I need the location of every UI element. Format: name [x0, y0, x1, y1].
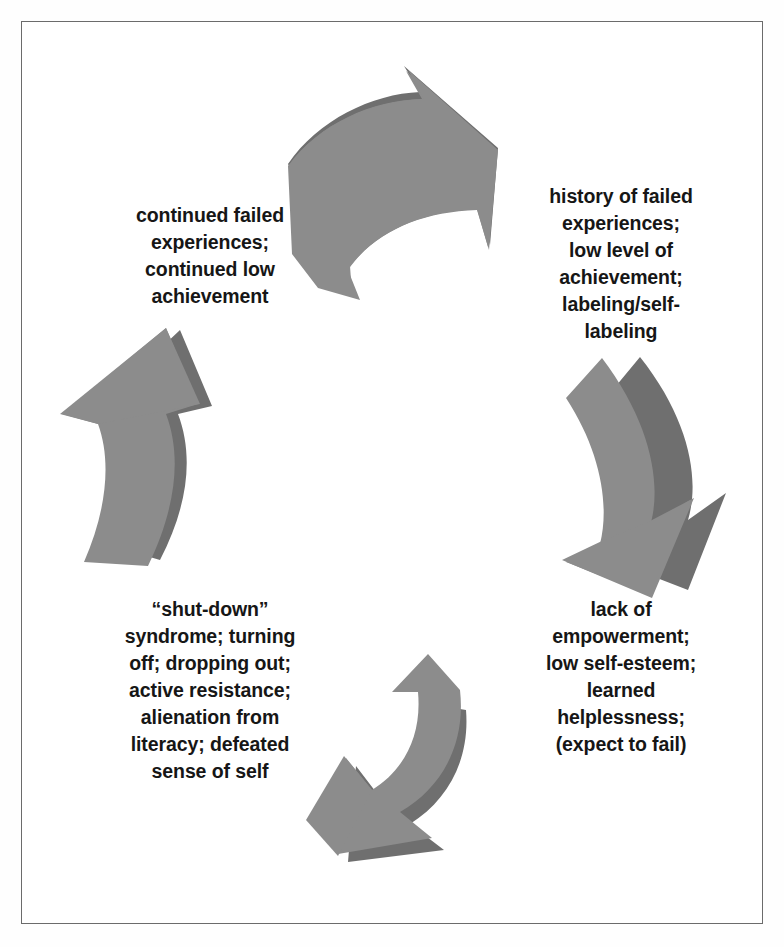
- cycle-arrows-group: [0, 0, 784, 947]
- stage-label-bottom-left: “shut-down” syndrome; turning off; dropp…: [45, 596, 375, 785]
- stage-label-bottom-right: lack of empowerment; low self-esteem; le…: [487, 596, 755, 758]
- diagram-page: continued failed experiences; continued …: [0, 0, 784, 947]
- arrow-right: [562, 357, 726, 598]
- arrow-left: [60, 328, 212, 566]
- stage-label-top-left: continued failed experiences; continued …: [60, 202, 360, 310]
- stage-label-top-right: history of failed experiences; low level…: [487, 183, 755, 345]
